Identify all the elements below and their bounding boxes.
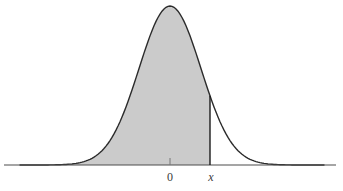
normal-curve-plot: 0 x xyxy=(0,0,343,191)
cutoff-label: x xyxy=(207,170,214,184)
shaded-area-left-of-x xyxy=(20,6,210,165)
mean-label: 0 xyxy=(167,170,173,184)
normal-curve-figure: 0 x xyxy=(0,0,343,191)
